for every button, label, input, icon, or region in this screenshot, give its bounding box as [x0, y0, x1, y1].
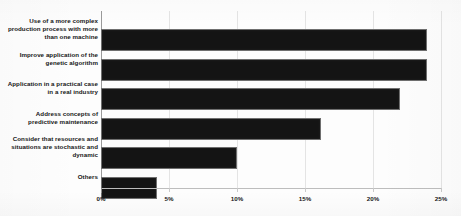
category-label: Improve application of the genetic algor… — [6, 51, 98, 67]
bar — [101, 59, 427, 81]
x-axis-line — [101, 188, 442, 189]
tick-mark-25% — [441, 188, 442, 192]
tick-mark-5% — [169, 188, 170, 192]
bar — [101, 147, 237, 169]
x-tick-label: 20% — [367, 195, 380, 202]
bar-row — [101, 88, 441, 110]
x-tick-label: 0% — [96, 195, 105, 202]
category-label: Others — [6, 173, 98, 181]
bar — [101, 88, 400, 110]
category-label: Address concepts of predictive maintenan… — [6, 110, 98, 126]
tick-mark-20% — [373, 188, 374, 192]
bar-row — [101, 147, 441, 169]
bar-row — [101, 118, 441, 140]
x-tick-label: 10% — [231, 195, 244, 202]
bar-row — [101, 29, 441, 51]
x-tick-label: 5% — [164, 195, 173, 202]
x-tick-label: 15% — [299, 195, 312, 202]
tick-mark-0% — [101, 188, 102, 193]
gridline-25% — [441, 11, 442, 188]
x-tick-label: 25% — [435, 195, 448, 202]
bar-row — [101, 59, 441, 81]
category-labels: Use of a more complex production process… — [3, 0, 98, 188]
category-label: Consider that resources and situations a… — [6, 135, 98, 159]
tick-mark-10% — [237, 188, 238, 192]
bar-chart: Use of a more complex production process… — [0, 0, 461, 216]
category-label: Use of a more complex production process… — [6, 17, 98, 41]
plot-area — [101, 11, 441, 188]
tick-mark-15% — [305, 188, 306, 192]
category-label: Application in a practical case in a rea… — [6, 80, 98, 96]
bar — [101, 118, 321, 140]
bar — [101, 29, 427, 51]
